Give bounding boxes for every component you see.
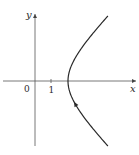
origin-label: 0 [24,84,30,94]
x-tick-label: 1 [49,85,55,95]
hyperbola-diagram: y x 0 1 [0,0,139,155]
y-axis-label: y [25,9,32,20]
x-axis-label: x [130,83,136,94]
